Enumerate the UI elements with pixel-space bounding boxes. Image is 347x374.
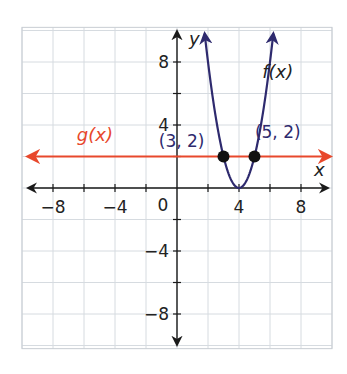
x-tick-label: 8 [296,197,307,217]
origin-label: 0 [158,195,169,215]
x-axis-label: x [313,159,325,180]
intersection-point [249,151,261,163]
f-of-x-label: f(x) [262,61,293,82]
annotations: f(x)g(x)(3, 2)(5, 2) [77,61,301,151]
series [28,34,330,188]
y-tick-label: −8 [144,304,169,324]
x-tick-label: −4 [102,197,127,217]
y-tick-label: 8 [158,52,169,72]
point-label: (5, 2) [255,122,301,142]
x-tick-label: 4 [234,197,245,217]
y-tick-label: −4 [144,241,169,261]
point-label: (3, 2) [159,131,205,151]
g-of-x-label: g(x) [77,124,113,145]
intersection-point [218,151,230,163]
y-axis-label: y [188,28,200,49]
x-tick-label: −8 [40,197,65,217]
coordinate-plane: −8−44884−4−80yx f(x)g(x)(3, 2)(5, 2) [0,0,347,374]
